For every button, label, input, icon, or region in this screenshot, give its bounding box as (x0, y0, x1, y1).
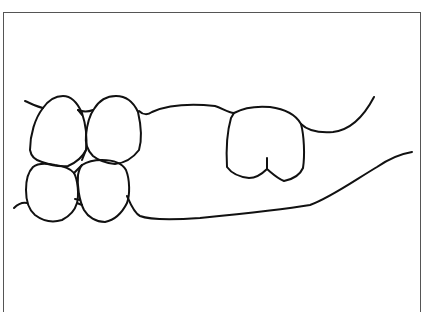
upper-left-tooth-2 (86, 96, 141, 164)
upper-gum-line (25, 97, 374, 132)
lower-left-tooth-1 (26, 164, 78, 222)
isolated-molar (227, 107, 304, 181)
lower-left-tooth-2 (78, 160, 129, 222)
